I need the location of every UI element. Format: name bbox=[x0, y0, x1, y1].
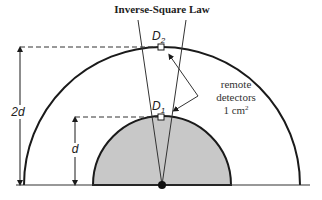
annotation-line1: remote bbox=[221, 78, 252, 90]
2d-label: 2d bbox=[10, 105, 25, 119]
d2-label: D2 bbox=[152, 29, 166, 45]
inner-hemisphere bbox=[93, 116, 231, 185]
source-point bbox=[158, 181, 166, 189]
d-label: d bbox=[72, 142, 79, 156]
diagram-title: Inverse-Square Law bbox=[114, 3, 209, 15]
d1-label: D1 bbox=[152, 99, 165, 115]
inverse-square-diagram: Inverse-Square Law 2d d D2 D1 remote det… bbox=[0, 0, 322, 200]
pointer-to-d1 bbox=[175, 96, 198, 110]
annotation-line2: detectors bbox=[216, 91, 256, 103]
pointer-to-d2 bbox=[170, 56, 198, 96]
annotation-line3: 1 cm2 bbox=[223, 104, 249, 116]
